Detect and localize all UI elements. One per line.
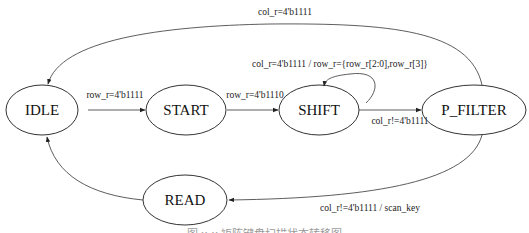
state-p-filter-label: P_FILTER <box>441 102 506 118</box>
transition-idle-start-label: row_r=4'b1111 <box>86 90 143 100</box>
transition-shift-pfilter-label: col_r!=4'b1111 <box>371 116 428 126</box>
state-shift: SHIFT <box>279 85 359 135</box>
state-diagram: IDLE START SHIFT P_FILTER READ row_r=4'b… <box>0 0 529 233</box>
state-start: START <box>146 85 226 135</box>
transition-start-shift-label: row_r=4'b1110 <box>226 90 284 100</box>
transition-start-shift: row_r=4'b1110 <box>226 90 284 110</box>
state-start-label: START <box>163 102 208 118</box>
transition-pfilter-idle-label: col_r=4'b1111 <box>258 7 312 17</box>
transition-pfilter-idle: col_r=4'b1111 <box>48 7 482 85</box>
transition-pfilter-read-label: col_r!=4'b1111 / scan_key <box>320 203 420 213</box>
transition-idle-start: row_r=4'b1111 <box>86 90 145 110</box>
state-p-filter: P_FILTER <box>422 85 526 135</box>
state-idle-label: IDLE <box>25 102 59 118</box>
transition-shift-self-label: col_r=4'b1111 / row_r={row_r[2:0],row_r[… <box>252 59 428 69</box>
state-shift-label: SHIFT <box>298 102 340 118</box>
state-idle: IDLE <box>6 85 78 135</box>
transition-read-idle <box>47 137 143 200</box>
transition-pfilter-read: col_r!=4'b1111 / scan_key <box>229 135 482 213</box>
state-read: READ <box>143 175 227 225</box>
state-read-label: READ <box>165 192 206 208</box>
transition-shift-pfilter: col_r!=4'b1111 <box>359 110 429 126</box>
figure-caption: 图 x-x 矩阵键盘扫描状态转移图 <box>0 225 529 233</box>
